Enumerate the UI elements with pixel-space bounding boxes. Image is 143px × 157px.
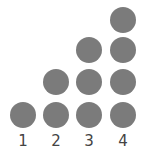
column-label: 4 xyxy=(110,133,136,149)
dot xyxy=(43,102,69,128)
dot xyxy=(110,102,136,128)
column-label: 2 xyxy=(43,133,69,149)
dot xyxy=(110,7,136,33)
column-label: 1 xyxy=(10,133,36,149)
dot xyxy=(43,69,69,95)
column-label: 3 xyxy=(76,133,102,149)
dot xyxy=(76,102,102,128)
dot xyxy=(76,37,102,63)
dot xyxy=(110,37,136,63)
dot xyxy=(110,69,136,95)
dot xyxy=(76,69,102,95)
dot xyxy=(10,102,36,128)
